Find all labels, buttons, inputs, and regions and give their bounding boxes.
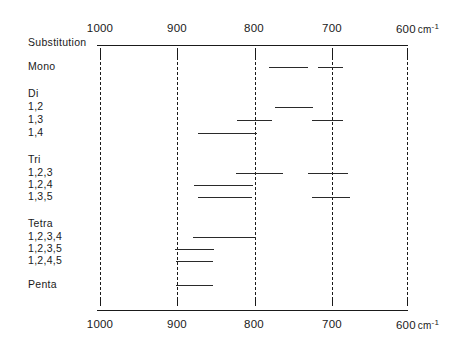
bottom-tick-label-800: 800: [244, 318, 264, 330]
bar-di-1-4-1: [198, 133, 257, 134]
bottom-tick-mark-900: [177, 297, 178, 306]
top-tick-mark-800: [255, 48, 256, 57]
top-tick-mark-1000: [100, 48, 101, 57]
top-tick-label-900: 900: [167, 22, 187, 34]
bar-tri-1-2-3-2: [308, 173, 348, 174]
bar-tri-1-3-5-2: [312, 197, 350, 198]
bar-di-1-2-1: [275, 107, 313, 108]
bottom-tick-label-1000: 1000: [87, 318, 113, 330]
row-label-1-2-3-5: 1,2,3,5: [28, 243, 62, 254]
row-label-1-2: 1,2: [28, 101, 44, 112]
axis-unit-exponent-bottom: -1: [432, 318, 440, 327]
top-tick-label-600-unit: 600cm-1: [396, 22, 439, 35]
row-label-di: Di: [28, 88, 39, 99]
gridline-900: [177, 57, 178, 300]
row-label-1-4: 1,4: [28, 127, 44, 138]
top-tick-mark-600: [407, 48, 408, 57]
row-label-1-2-4-5: 1,2,4,5: [28, 255, 62, 266]
row-label-1-3-5: 1,3,5: [28, 191, 53, 202]
row-label-substitution: Substitution: [28, 37, 86, 48]
axis-unit-top: cm-1: [418, 24, 439, 35]
bar-tri-1-2-4-1: [194, 185, 253, 186]
bottom-tick-mark-1000: [100, 297, 101, 306]
bar-mono-1: [269, 67, 308, 68]
bottom-axis-rule: [97, 310, 408, 311]
row-label-tetra: Tetra: [28, 218, 53, 229]
gridline-1000: [100, 57, 101, 300]
row-label-mono: Mono: [28, 61, 55, 72]
bar-di-1-3-2: [312, 120, 343, 121]
bottom-tick-mark-700: [332, 297, 333, 306]
bar-tetra-1-2-3-4-1: [193, 237, 256, 238]
row-label-1-3: 1,3: [28, 114, 44, 125]
ir-substitution-chart: 1000 900 800 700 600cm-1 Substitution Mo…: [0, 0, 462, 353]
row-label-1-2-3-4: 1,2,3,4: [28, 231, 62, 242]
row-label-1-2-4: 1,2,4: [28, 179, 53, 190]
bar-tetra-1-2-3-5-1: [175, 249, 214, 250]
bar-tri-1-3-5-1: [198, 197, 252, 198]
bar-tri-1-2-3-1: [236, 173, 283, 174]
bar-di-1-3-1: [237, 120, 272, 121]
row-label-1-2-3: 1,2,3: [28, 167, 53, 178]
top-tick-label-600: 600: [396, 23, 416, 35]
bottom-tick-label-600: 600: [396, 319, 416, 331]
top-tick-mark-700: [332, 48, 333, 57]
top-tick-label-700: 700: [322, 22, 342, 34]
top-axis-rule: [97, 45, 408, 46]
bar-tetra-1-2-4-5-1: [176, 261, 213, 262]
bottom-tick-label-600-unit: 600cm-1: [396, 318, 439, 331]
top-tick-label-1000: 1000: [87, 22, 113, 34]
row-label-penta: Penta: [28, 279, 57, 290]
top-tick-label-800: 800: [244, 22, 264, 34]
bottom-tick-mark-800: [255, 297, 256, 306]
bottom-tick-mark-600: [407, 297, 408, 306]
bar-penta-1: [176, 285, 213, 286]
gridline-700: [332, 57, 333, 300]
bar-mono-2: [318, 67, 343, 68]
bottom-tick-label-700: 700: [322, 318, 342, 330]
gridline-800: [255, 57, 256, 300]
bottom-tick-label-900: 900: [167, 318, 187, 330]
top-tick-mark-900: [177, 48, 178, 57]
gridline-600: [407, 57, 408, 300]
axis-unit-exponent-top: -1: [432, 22, 440, 31]
row-label-tri: Tri: [28, 154, 41, 165]
axis-unit-bottom: cm-1: [418, 320, 439, 331]
